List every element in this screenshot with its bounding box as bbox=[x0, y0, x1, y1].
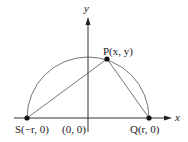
point-Q-label: Q(r, 0) bbox=[130, 123, 160, 136]
point-S bbox=[24, 115, 29, 120]
point-P bbox=[104, 56, 109, 61]
point-Q bbox=[146, 115, 151, 120]
point-P-label: P(x, y) bbox=[103, 45, 133, 58]
segment-SP bbox=[27, 59, 107, 118]
point-S-label: S(−r, 0) bbox=[15, 123, 49, 136]
y-axis-arrow-icon bbox=[86, 17, 91, 25]
semicircle-diagram: y x P(x, y) S(−r, 0) (0, 0) Q(r, 0) bbox=[0, 0, 188, 142]
segment-PQ bbox=[107, 59, 149, 118]
y-axis-label: y bbox=[83, 2, 89, 14]
origin-label: (0, 0) bbox=[62, 123, 86, 136]
x-axis-label: x bbox=[174, 111, 180, 123]
x-axis-arrow-icon bbox=[164, 116, 172, 121]
